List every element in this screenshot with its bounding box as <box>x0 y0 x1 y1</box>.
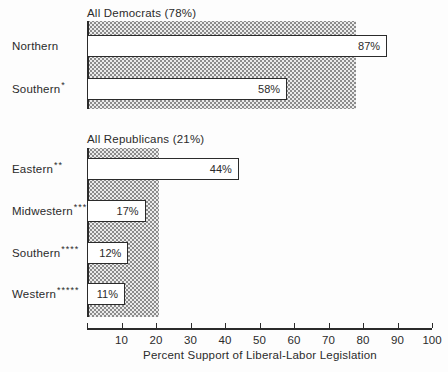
x-axis-tick-100 <box>432 323 433 328</box>
x-axis-tick-label-90: 90 <box>391 334 404 346</box>
bar-value-label: 87% <box>358 40 386 52</box>
figure-liberal-labor-support-chart: All Democrats (78%)Northern87%Southern*5… <box>0 0 448 372</box>
x-axis-tick-10 <box>122 323 123 328</box>
x-axis-line <box>87 328 432 330</box>
x-axis-tick-label-20: 20 <box>150 334 163 346</box>
row-label-southern: Southern**** <box>12 242 79 264</box>
group-title-all-democrats-78: All Democrats (78%) <box>87 6 196 20</box>
x-axis-tick-0 <box>87 323 88 328</box>
row-label-text: Southern <box>12 83 60 95</box>
x-axis-tick-label-40: 40 <box>219 334 232 346</box>
row-label-asterisks: ** <box>54 160 63 170</box>
bar-eastern: 44% <box>87 158 239 180</box>
x-axis-tick-label-80: 80 <box>357 334 370 346</box>
bar-value-label: 11% <box>97 288 124 300</box>
row-label-text: Southern <box>12 247 60 259</box>
bar-value-label: 58% <box>258 83 286 95</box>
bar-midwestern: 17% <box>87 200 146 222</box>
row-label-text: Western <box>12 288 56 300</box>
x-axis-tick-label-50: 50 <box>253 334 266 346</box>
bar-value-label: 17% <box>117 205 145 217</box>
row-label-asterisks: **** <box>61 244 79 254</box>
row-label-text: Northern <box>12 40 58 52</box>
x-axis-tick-90 <box>398 323 399 328</box>
row-label-southern: Southern* <box>12 78 66 100</box>
x-axis-tick-label-30: 30 <box>184 334 197 346</box>
x-axis-tick-label-10: 10 <box>115 334 128 346</box>
bar-value-label: 44% <box>210 163 238 175</box>
x-axis-tick-label-70: 70 <box>322 334 335 346</box>
x-axis-tick-80 <box>363 323 364 328</box>
row-label-asterisks: ***** <box>57 285 80 295</box>
x-axis-tick-60 <box>294 323 295 328</box>
row-label-asterisks: *** <box>74 202 88 212</box>
bar-northern: 87% <box>87 35 387 57</box>
x-axis-tick-50 <box>260 323 261 328</box>
row-label-western: Western***** <box>12 283 80 305</box>
row-label-text: Eastern <box>12 163 53 175</box>
bar-southern: 58% <box>87 78 287 100</box>
group-title-all-republicans-21: All Republicans (21%) <box>87 132 204 146</box>
row-label-northern: Northern <box>12 35 58 57</box>
x-axis-tick-30 <box>191 323 192 328</box>
row-label-asterisks: * <box>61 80 66 90</box>
x-axis-tick-20 <box>156 323 157 328</box>
x-axis-tick-label-100: 100 <box>422 334 441 346</box>
row-label-eastern: Eastern** <box>12 158 63 180</box>
row-label-text: Midwestern <box>12 205 73 217</box>
x-axis-tick-70 <box>329 323 330 328</box>
bar-value-label: 12% <box>99 247 127 259</box>
bar-western: 11% <box>87 283 125 305</box>
x-axis-tick-label-60: 60 <box>288 334 301 346</box>
x-axis-tick-40 <box>225 323 226 328</box>
row-label-midwestern: Midwestern*** <box>12 200 87 222</box>
x-axis-title: Percent Support of Liberal-Labor Legisla… <box>143 349 377 361</box>
bar-southern: 12% <box>87 242 128 264</box>
